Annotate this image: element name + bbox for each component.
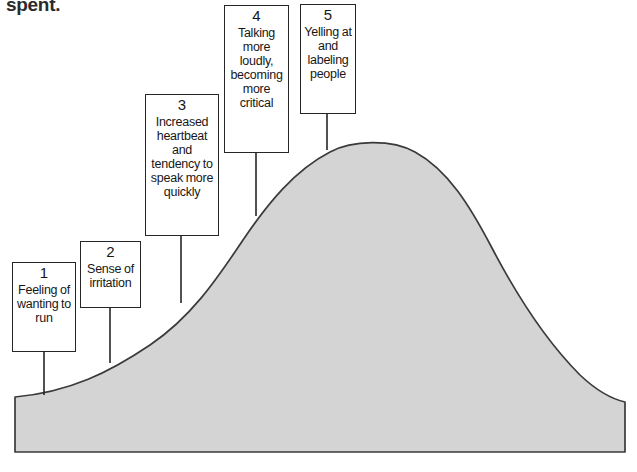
stage-label-4: Talking more loudly, becoming more criti… xyxy=(226,26,287,110)
anger-escalation-figure: spent. 1 Feeling of wanting to run 2 Sen… xyxy=(0,0,637,472)
stage-number-1: 1 xyxy=(40,265,48,282)
stage-box-3[interactable]: 3 Increased heartbeat and tendency to sp… xyxy=(145,94,219,236)
stage-label-1: Feeling of wanting to run xyxy=(14,283,74,325)
stage-box-2[interactable]: 2 Sense of irritation xyxy=(80,241,141,308)
stage-label-5: Yelling at and labeling people xyxy=(302,25,354,81)
stage-number-3: 3 xyxy=(178,97,186,114)
stage-number-2: 2 xyxy=(106,244,114,261)
stage-label-3: Increased heartbeat and tendency to spea… xyxy=(147,115,217,199)
stage-label-2: Sense of irritation xyxy=(82,262,139,290)
stage-number-4: 4 xyxy=(252,8,260,25)
stage-box-1[interactable]: 1 Feeling of wanting to run xyxy=(12,262,76,352)
stage-number-5: 5 xyxy=(324,7,332,24)
stage-box-4[interactable]: 4 Talking more loudly, becoming more cri… xyxy=(224,5,289,153)
stage-box-5[interactable]: 5 Yelling at and labeling people xyxy=(300,4,356,114)
